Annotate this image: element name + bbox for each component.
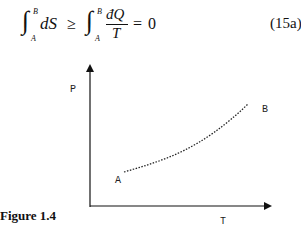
process-curve (124, 104, 248, 172)
y-axis-label: P (70, 84, 76, 95)
figure-caption: Figure 1.4 (0, 208, 56, 224)
x-axis-label: T (220, 216, 226, 227)
end-point-label: B (262, 104, 268, 115)
start-point-label: A (115, 175, 121, 186)
figure-diagram: P B A T (0, 0, 301, 234)
